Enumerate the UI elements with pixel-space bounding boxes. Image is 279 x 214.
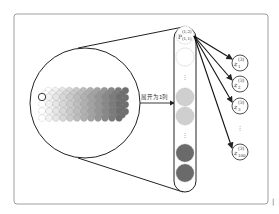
grid-neuron bbox=[60, 108, 67, 115]
grid-neuron bbox=[81, 115, 88, 122]
grid-neuron bbox=[46, 115, 53, 122]
grid-neuron bbox=[60, 115, 67, 122]
column-node bbox=[176, 107, 194, 125]
column-node bbox=[176, 164, 194, 182]
grid-neuron bbox=[74, 108, 81, 115]
grid-neuron bbox=[67, 115, 74, 122]
column-node bbox=[176, 48, 194, 66]
output-superscript: (3) bbox=[238, 100, 245, 105]
grid-neuron bbox=[88, 108, 95, 115]
grid-neuron bbox=[109, 94, 116, 101]
grid-neuron bbox=[95, 101, 102, 108]
grid-neuron bbox=[46, 94, 53, 101]
column-node bbox=[176, 88, 194, 106]
grid-neuron bbox=[39, 115, 46, 122]
grid-neuron bbox=[53, 94, 60, 101]
corner-mark: | bbox=[272, 198, 274, 206]
grid-neuron bbox=[81, 94, 88, 101]
column-ellipsis: ⋮ bbox=[182, 73, 188, 80]
grid-neuron bbox=[53, 108, 60, 115]
output-subscript: 100 bbox=[238, 153, 246, 158]
grid-neuron bbox=[88, 101, 95, 108]
grid-neuron bbox=[53, 101, 60, 108]
grid-neuron bbox=[60, 94, 67, 101]
grid-neuron bbox=[74, 115, 81, 122]
grid-neuron bbox=[74, 101, 81, 108]
grid-neuron bbox=[116, 101, 123, 108]
grid-neuron bbox=[109, 108, 116, 115]
input-neuron-grid bbox=[38, 87, 129, 121]
grid-neuron bbox=[39, 108, 46, 115]
grid-neuron bbox=[95, 94, 102, 101]
grid-neuron bbox=[88, 94, 95, 101]
grid-neuron bbox=[74, 94, 81, 101]
grid-neuron bbox=[67, 108, 74, 115]
grid-neuron bbox=[116, 108, 123, 115]
column-ellipsis: ⋮ bbox=[182, 131, 188, 138]
grid-neuron bbox=[102, 108, 109, 115]
grid-neuron bbox=[67, 101, 74, 108]
grid-neuron bbox=[116, 115, 123, 122]
output-superscript: (3) bbox=[238, 78, 245, 83]
output-ellipsis: ⋮ bbox=[237, 124, 243, 131]
grid-neuron bbox=[46, 101, 53, 108]
grid-neuron bbox=[109, 115, 116, 122]
expand-label: 展开为1列 bbox=[141, 93, 169, 101]
grid-neuron bbox=[39, 101, 46, 108]
grid-neuron bbox=[53, 115, 60, 122]
grid-neuron bbox=[109, 101, 116, 108]
grid-neuron bbox=[95, 115, 102, 122]
top-node-superscript: (1,2) bbox=[182, 29, 192, 34]
top-node-subscript: (1,1) bbox=[182, 36, 192, 41]
output-superscript: (3) bbox=[238, 57, 245, 62]
column-node bbox=[176, 144, 194, 162]
output-subscript: 1 bbox=[238, 64, 241, 69]
grid-neuron bbox=[60, 101, 67, 108]
grid-neuron bbox=[102, 101, 109, 108]
grid-neuron bbox=[102, 115, 109, 122]
grid-neuron bbox=[67, 94, 74, 101]
grid-neuron bbox=[81, 101, 88, 108]
grid-neuron bbox=[88, 115, 95, 122]
grid-neuron bbox=[46, 108, 53, 115]
diagram-canvas: 展开为1列 ⋮⋮P(1,2)(1,1) z(3)1z(3)2z(3)3⋮z(3)… bbox=[0, 0, 279, 214]
grid-neuron bbox=[116, 94, 123, 101]
grid-neuron bbox=[95, 108, 102, 115]
grid-neuron bbox=[102, 94, 109, 101]
highlighted-neuron bbox=[38, 93, 45, 100]
grid-neuron bbox=[81, 108, 88, 115]
output-superscript: (3) bbox=[238, 146, 245, 151]
